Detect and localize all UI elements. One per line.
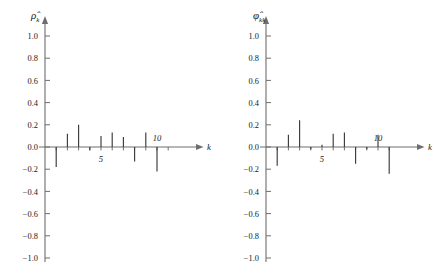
y-tick-label: 0.2 — [249, 121, 259, 130]
y-tick-label: 1.0 — [249, 32, 259, 41]
acf-plot: 1.00.80.60.40.20.0−0.2−0.4−0.6−0.8−1.051… — [0, 0, 218, 276]
x-axis-title: k — [428, 142, 433, 152]
pacf-panel: 1.00.80.60.40.20.0−0.2−0.4−0.6−0.8−1.051… — [215, 0, 433, 276]
y-tick-label: 0.0 — [28, 143, 38, 152]
y-tick-label: −0.6 — [244, 210, 259, 219]
x-axis-title: k — [207, 142, 212, 152]
x-tick-label: 10 — [153, 133, 162, 143]
y-tick-label: −0.2 — [23, 165, 38, 174]
y-tick-label: −0.8 — [244, 232, 259, 241]
acf-pacf-figure: 1.00.80.60.40.20.0−0.2−0.4−0.6−0.8−1.051… — [0, 0, 437, 276]
pacf-y-axis-title-subscript: kk — [259, 16, 265, 24]
pacf-plot: 1.00.80.60.40.20.0−0.2−0.4−0.6−0.8−1.051… — [215, 0, 437, 276]
y-tick-label: 0.4 — [28, 99, 39, 108]
y-tick-label: 0.4 — [249, 99, 260, 108]
acf-y-axis-title-subscript: k — [36, 16, 39, 24]
y-tick-label: −0.4 — [23, 188, 39, 197]
y-tick-label: −0.8 — [23, 232, 38, 241]
x-tick-label: 5 — [320, 154, 325, 164]
acf-y-axis-title: ρ̂k — [31, 10, 39, 24]
y-tick-label: −0.4 — [244, 188, 260, 197]
y-tick-label: −0.6 — [23, 210, 38, 219]
y-tick-label: 0.6 — [28, 77, 38, 86]
y-tick-label: −1.0 — [244, 254, 259, 263]
pacf-y-axis-title: φ̂kk — [253, 10, 265, 24]
x-tick-label: 5 — [99, 154, 104, 164]
acf-panel: 1.00.80.60.40.20.0−0.2−0.4−0.6−0.8−1.051… — [0, 0, 218, 276]
y-tick-label: 0.8 — [249, 54, 259, 63]
y-tick-label: 0.8 — [28, 54, 38, 63]
y-tick-label: −1.0 — [23, 254, 38, 263]
y-tick-label: 0.2 — [28, 121, 38, 130]
y-tick-label: 0.6 — [249, 77, 259, 86]
y-tick-label: −0.2 — [244, 165, 259, 174]
y-tick-label: 1.0 — [28, 32, 38, 41]
y-tick-label: 0.0 — [249, 143, 259, 152]
